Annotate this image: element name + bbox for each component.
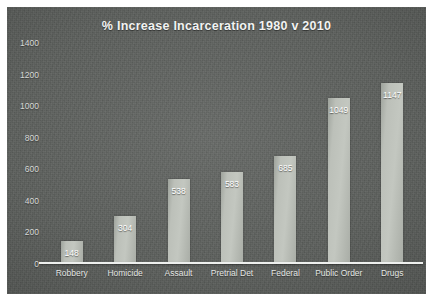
bar-value-label: 583 xyxy=(225,179,239,189)
y-axis-tick-400: 400 xyxy=(25,196,39,206)
bar-value-label: 1147 xyxy=(383,90,401,100)
x-axis-label-federal: Federal xyxy=(259,268,312,278)
bar-value-label: 148 xyxy=(65,248,79,258)
x-axis-line xyxy=(39,262,423,264)
bar-federal[interactable]: 685 xyxy=(274,156,296,264)
bar-value-label: 685 xyxy=(278,163,292,173)
x-axis-label-homicide: Homicide xyxy=(98,268,151,278)
bar-slot-drugs: 1147 xyxy=(366,43,419,264)
bar-slot-homicide: 304 xyxy=(98,43,151,264)
bar-value-label: 1049 xyxy=(329,105,348,115)
bar-slot-public-order: 1049 xyxy=(312,43,365,264)
y-axis-tick-1000: 1000 xyxy=(20,101,39,111)
bar-drugs[interactable]: 1147 xyxy=(381,83,403,264)
x-axis-label-robbery: Robbery xyxy=(45,268,98,278)
bar-public-order[interactable]: 1049 xyxy=(328,98,350,264)
y-axis-tick-200: 200 xyxy=(25,227,39,237)
bar-pretrial-det[interactable]: 583 xyxy=(221,172,243,264)
y-axis-tick-0: 0 xyxy=(34,259,39,269)
bar-value-label: 538 xyxy=(171,186,185,196)
bar-slot-assault: 538 xyxy=(152,43,205,264)
plot-area: 1400 1200 1000 800 600 400 200 0 148 304… xyxy=(45,43,419,264)
bar-robbery[interactable]: 148 xyxy=(61,241,83,264)
bar-slot-robbery: 148 xyxy=(45,43,98,264)
chart-title: % Increase Incarceration 1980 v 2010 xyxy=(7,19,426,33)
bar-homicide[interactable]: 304 xyxy=(114,216,136,264)
bar-series: 148 304 538 583 685 xyxy=(45,43,419,264)
y-axis-tick-800: 800 xyxy=(25,133,39,143)
x-axis-label-drugs: Drugs xyxy=(366,268,419,278)
x-axis-label-public-order: Public Order xyxy=(312,268,365,278)
x-axis-label-assault: Assault xyxy=(152,268,205,278)
bar-slot-federal: 685 xyxy=(259,43,312,264)
x-axis-labels: Robbery Homicide Assault Pretrial Det Fe… xyxy=(45,268,419,278)
y-axis-tick-1400: 1400 xyxy=(20,38,39,48)
chart-figure: % Increase Incarceration 1980 v 2010 140… xyxy=(7,7,426,294)
y-axis-tick-1200: 1200 xyxy=(20,70,39,80)
y-axis-tick-600: 600 xyxy=(25,164,39,174)
bar-value-label: 304 xyxy=(118,223,132,233)
bar-assault[interactable]: 538 xyxy=(168,179,190,264)
bar-slot-pretrial-det: 583 xyxy=(205,43,258,264)
x-axis-label-pretrial-det: Pretrial Det xyxy=(205,268,258,278)
